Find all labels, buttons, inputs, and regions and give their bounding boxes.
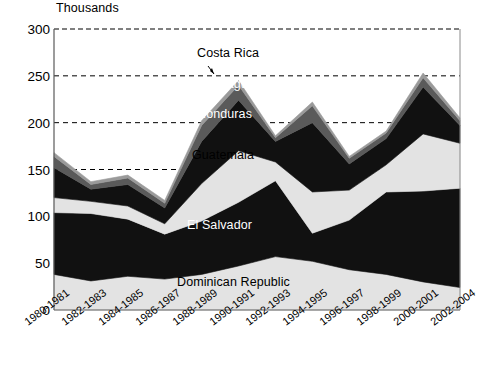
series-label-dominican-republic: Dominican Republic xyxy=(177,275,290,289)
series-label-el-salvador: El Salvador xyxy=(187,218,252,232)
series-label-costa-rica: Costa Rica xyxy=(197,46,259,60)
series-label-guatemala: Guatemala xyxy=(192,148,254,162)
costa-rica-leader-line xyxy=(208,66,214,74)
series-label-nicaragua: Nicaragua xyxy=(197,77,255,91)
series-label-honduras: Honduras xyxy=(197,107,252,121)
